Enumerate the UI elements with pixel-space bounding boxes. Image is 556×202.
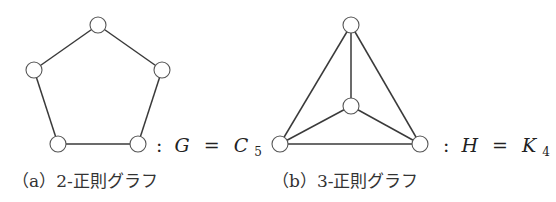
graph-edge (280, 25, 351, 144)
graph-edge (351, 25, 420, 144)
graph-edge (34, 25, 98, 70)
graph-b-nodes (272, 17, 428, 152)
graph-a-label: : G = C 5 (156, 134, 262, 159)
label-equals: = (204, 134, 220, 156)
graph-vertex (272, 136, 288, 152)
graph-vertex (412, 136, 428, 152)
label-rhs-subscript: 5 (254, 145, 262, 159)
graph-vertex (90, 17, 106, 33)
graph-edge (34, 70, 58, 144)
label-colon: : (443, 134, 449, 156)
graph-b-edges (280, 25, 420, 144)
caption-a: （a）2-正則グラフ (12, 171, 158, 191)
figure-canvas: : G = C 5 （a）2-正則グラフ : H = K 4 （b）3-正則グラ… (0, 0, 556, 202)
label-rhs-subscript: 4 (542, 145, 550, 159)
graph-edge (98, 25, 162, 70)
graph-a-edges (34, 25, 162, 144)
caption-b: （b）3-正則グラフ (272, 171, 418, 191)
graph-vertex (26, 62, 42, 78)
graph-k4-3-regular: : H = K 4 （b）3-正則グラフ (272, 17, 550, 191)
graph-b-label: : H = K 4 (443, 134, 550, 159)
graph-vertex (154, 62, 170, 78)
label-rhs: K (521, 134, 538, 156)
label-rhs: C (234, 134, 249, 156)
label-lhs: G (174, 134, 189, 156)
label-lhs: H (460, 134, 478, 156)
label-colon: : (156, 134, 162, 156)
graph-vertex (343, 98, 359, 114)
label-equals: = (492, 134, 508, 156)
graph-vertex (50, 136, 66, 152)
graph-a-nodes (26, 17, 170, 152)
graph-edge (138, 70, 162, 144)
graph-c5-2-regular: : G = C 5 （a）2-正則グラフ (12, 17, 262, 191)
graph-vertex (130, 136, 146, 152)
graph-vertex (343, 17, 359, 33)
